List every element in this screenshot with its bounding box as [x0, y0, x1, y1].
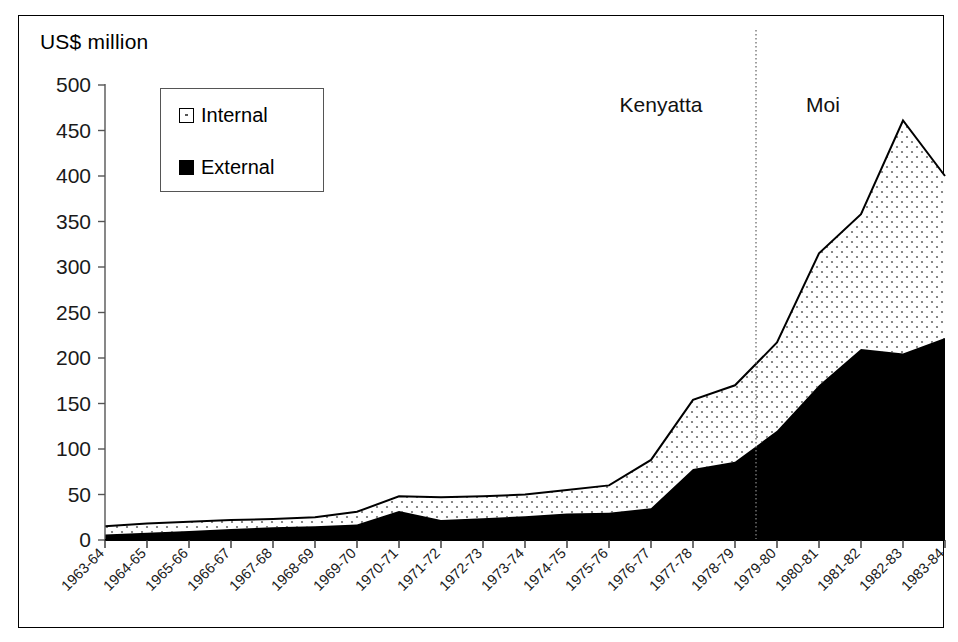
y-tick-label: 400 [56, 164, 91, 187]
x-tick-label: 1981-82 [814, 545, 863, 594]
y-tick-label: 100 [56, 437, 91, 460]
x-tick-label: 1982-83 [856, 545, 905, 594]
internal-pattern-swatch-icon [179, 108, 194, 123]
x-tick-label: 1968-69 [268, 545, 317, 594]
legend-item-external: External [161, 141, 323, 193]
x-tick-label: 1964-65 [100, 545, 149, 594]
chart-plot-area: 0501001502002503003504004505001963-64196… [0, 0, 958, 642]
legend-label-external: External [201, 157, 274, 177]
y-tick-label: 250 [56, 301, 91, 324]
x-tick-label: 1969-70 [310, 545, 359, 594]
y-tick-label: 50 [68, 483, 91, 506]
y-tick-label: 450 [56, 119, 91, 142]
y-tick-label: 0 [79, 528, 91, 551]
y-tick-label: 150 [56, 392, 91, 415]
y-tick-label: 350 [56, 210, 91, 233]
y-tick-label: 200 [56, 346, 91, 369]
kenyatta-label: Kenyatta [620, 93, 703, 116]
x-tick-label: 1974-75 [520, 545, 569, 594]
x-tick-label: 1975-76 [562, 545, 611, 594]
chart-root: US$ million 0501001502002503003504004505… [0, 0, 958, 642]
moi-label: Moi [806, 93, 840, 116]
x-tick-label: 1971-72 [394, 545, 443, 594]
x-tick-label: 1972-73 [436, 545, 485, 594]
x-tick-label: 1977-78 [646, 545, 695, 594]
x-tick-label: 1970-71 [352, 545, 401, 594]
x-tick-label: 1979-80 [730, 545, 779, 594]
legend-item-internal: Internal [161, 89, 323, 141]
x-tick-label: 1965-66 [142, 545, 191, 594]
legend-label-internal: Internal [201, 105, 268, 125]
y-tick-label: 500 [56, 73, 91, 96]
x-tick-label: 1967-68 [226, 545, 275, 594]
x-tick-label: 1976-77 [604, 545, 653, 594]
chart-legend: Internal External [160, 88, 324, 192]
y-tick-label: 300 [56, 255, 91, 278]
x-tick-label: 1963-64 [58, 545, 107, 594]
x-tick-label: 1983-84 [898, 545, 947, 594]
x-tick-label: 1973-74 [478, 545, 527, 594]
external-solid-swatch-icon [179, 160, 194, 175]
x-tick-label: 1980-81 [772, 545, 821, 594]
x-tick-label: 1978-79 [688, 545, 737, 594]
x-tick-label: 1966-67 [184, 545, 233, 594]
